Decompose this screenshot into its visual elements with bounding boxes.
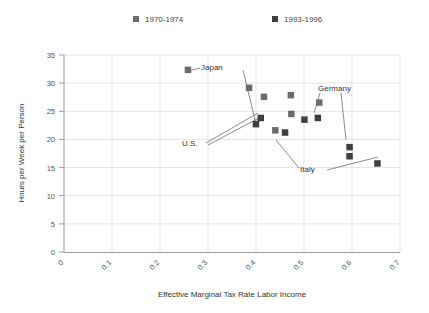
- annotation-italy: Italy: [300, 165, 315, 174]
- legend-label-1993-1996: 1993-1996: [284, 15, 323, 24]
- leader-line-germany-1993: [341, 93, 346, 140]
- data-point-1993-1996-italy: [374, 160, 381, 167]
- x-axis-title: Effective Marginal Tax Rate Labor Income: [158, 290, 307, 299]
- x-tick-label-0.6: 0.6: [340, 258, 354, 272]
- y-tick-label-20: 20: [47, 135, 55, 144]
- scatter-chart: 1970-1974 1993-1996: [0, 0, 429, 313]
- data-point-1970-1974-6: [288, 111, 295, 118]
- y-tick-labels: 35 30 25 20 15 10 5 0: [47, 51, 55, 257]
- annotation-germany: Germany: [318, 84, 351, 93]
- data-point-1970-1974-4: [288, 92, 295, 99]
- annotation-japan: Japan: [201, 63, 223, 72]
- y-tick-label-35: 35: [47, 51, 55, 60]
- x-tick-labels: 0 0.1 0.2 0.3 0.4 0.5 0.6 0.7: [56, 258, 401, 272]
- legend-swatch-1993-1996: [272, 16, 278, 22]
- data-point-1970-1974-germany: [316, 99, 323, 106]
- data-point-1970-1974-italy: [272, 127, 279, 134]
- data-point-1970-1974-us: [261, 94, 268, 101]
- y-tick-label-25: 25: [47, 107, 55, 116]
- data-point-1993-1996-6: [346, 144, 353, 151]
- x-tick-label-0.2: 0.2: [148, 258, 162, 272]
- data-point-1993-1996-japan: [253, 121, 260, 128]
- data-point-1993-1996-germany: [315, 115, 322, 122]
- y-tick-label-0: 0: [51, 248, 55, 257]
- leader-line-japan-1993: [243, 70, 256, 124]
- y-tick-label-15: 15: [47, 164, 55, 173]
- x-tick-label-0.5: 0.5: [292, 258, 306, 272]
- annotation-us: U.S.: [182, 139, 198, 148]
- chart-canvas: 1970-1974 1993-1996: [0, 0, 429, 313]
- data-point-1993-1996-us: [258, 115, 265, 122]
- data-point-1993-1996-3: [301, 116, 308, 123]
- x-tick-label-0.7: 0.7: [388, 258, 402, 272]
- data-point-1993-1996-7: [346, 153, 353, 160]
- leader-line-italy-1970: [276, 140, 299, 168]
- x-tick-label-0.1: 0.1: [100, 258, 114, 272]
- data-point-1970-1974-2: [246, 85, 253, 92]
- data-point-1993-1996-4: [282, 129, 289, 136]
- y-tick-label-30: 30: [47, 79, 55, 88]
- y-tick-label-10: 10: [47, 192, 55, 201]
- x-tick-label-0: 0: [56, 258, 65, 267]
- y-axis-title: Hours per Week per Person: [17, 103, 26, 202]
- legend-label-1970-1974: 1970-1974: [145, 15, 184, 24]
- x-tick-label-0.3: 0.3: [196, 258, 210, 272]
- data-point-1970-1974-japan: [185, 67, 192, 74]
- leader-line-us-1970: [206, 113, 258, 143]
- y-tick-label-5: 5: [51, 220, 55, 229]
- leader-line-us-1993: [208, 118, 259, 145]
- series-1993-1996-points: [253, 115, 381, 167]
- legend-swatch-1970-1974: [133, 16, 139, 22]
- x-tick-label-0.4: 0.4: [244, 258, 258, 272]
- chart-legend: 1970-1974 1993-1996: [133, 15, 323, 24]
- point-annotations: Japan U.S. Germany Italy: [182, 63, 351, 174]
